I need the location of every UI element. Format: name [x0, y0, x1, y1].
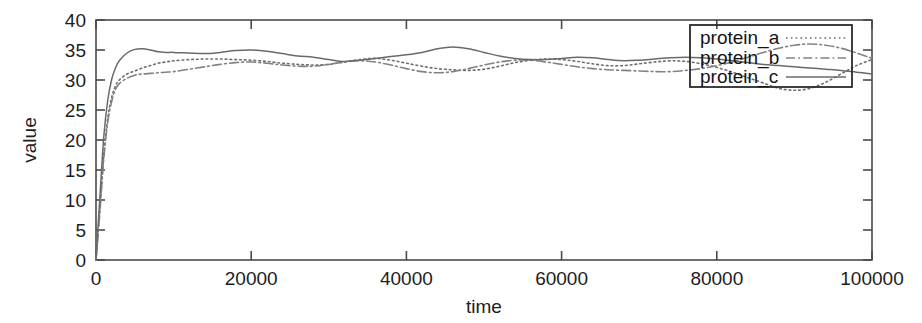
y-tick-label: 20 — [65, 130, 86, 151]
legend-label-protein-c: protein_c — [700, 66, 778, 88]
line-chart: 0510152025303540 02000040000600008000010… — [0, 0, 922, 323]
x-tick-label: 0 — [91, 268, 102, 289]
x-tick-label: 60000 — [535, 268, 588, 289]
y-tick-label: 5 — [75, 220, 86, 241]
x-tick-label: 80000 — [690, 268, 743, 289]
y-axis-title: value — [19, 117, 40, 162]
chart-figure: 0510152025303540 02000040000600008000010… — [0, 0, 922, 323]
series-line-protein-a — [96, 58, 872, 260]
y-tick-label: 10 — [65, 190, 86, 211]
y-tick-label: 0 — [75, 250, 86, 271]
x-tick-label: 40000 — [380, 268, 433, 289]
x-axis-title: time — [466, 296, 502, 317]
x-tick-label: 100000 — [840, 268, 903, 289]
y-tick-label: 30 — [65, 70, 86, 91]
chart-legend[interactable]: protein_a protein_b protein_c — [690, 25, 852, 88]
y-tick-label: 25 — [65, 100, 86, 121]
x-axis-ticks: 020000400006000080000100000 — [91, 20, 904, 289]
legend-label-protein-a: protein_a — [700, 27, 780, 49]
y-tick-label: 40 — [65, 10, 86, 31]
x-tick-label: 20000 — [225, 268, 278, 289]
y-tick-label: 15 — [65, 160, 86, 181]
y-tick-label: 35 — [65, 40, 86, 61]
